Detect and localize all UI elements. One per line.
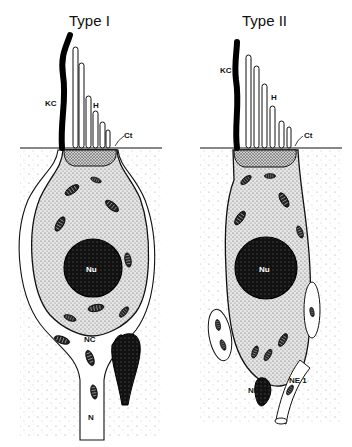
- type-2-label-ne2: NE 2: [248, 386, 266, 395]
- type-1-title: Type I: [69, 12, 110, 29]
- type-2-label-h: H: [271, 93, 277, 102]
- hair-cell-diagram: Type I Nu KC: [0, 0, 352, 447]
- type-2-ct-arrow: [295, 136, 303, 146]
- type-1-cuticular-plate: [64, 150, 116, 166]
- type-2-panel: Type II Nu NE 1 NE 2 KC: [200, 12, 342, 424]
- type-1-label-n: N: [88, 413, 94, 422]
- type-1-label-nu: Nu: [86, 265, 97, 274]
- mitochondrion: [264, 174, 275, 179]
- type-1-panel: Type I Nu KC: [19, 12, 162, 440]
- type-1-label-nc: NC: [84, 335, 96, 344]
- type-2-stereocilia: [246, 55, 291, 148]
- type-1-label-kc: KC: [45, 99, 57, 108]
- type-2-title: Type II: [242, 12, 287, 29]
- type-1-label-ct: Ct: [124, 131, 133, 140]
- type-2-fiber-cut-end: [275, 418, 287, 424]
- type-2-label-nu: Nu: [259, 265, 270, 274]
- type-1-stereocilia: [73, 47, 110, 148]
- type-2-kinocilium: [235, 42, 237, 148]
- type-1-label-h: H: [93, 101, 99, 110]
- type-2-label-ne1: NE 1: [289, 376, 307, 385]
- type-2-label-kc: KC: [220, 66, 232, 75]
- type-2-cuticular-plate: [234, 150, 296, 167]
- type-2-label-ct: Ct: [304, 131, 313, 140]
- type-1-ct-arrow: [115, 136, 124, 146]
- type-1-kinocilium: [62, 35, 70, 148]
